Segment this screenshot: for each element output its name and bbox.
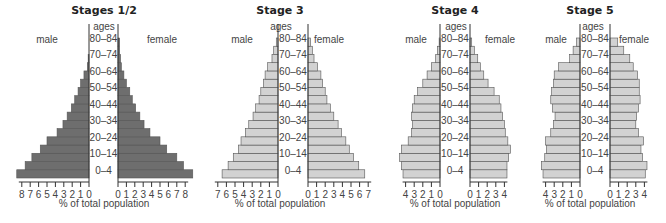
male-label: male — [545, 34, 567, 45]
male-bar-10-14 — [400, 153, 440, 161]
age-label: 80–84 — [90, 33, 118, 44]
male-bar-80-84 — [577, 38, 580, 46]
female-label: female — [147, 34, 177, 45]
female-bar-35-39 — [470, 112, 503, 120]
age-label: 0–4 — [447, 165, 464, 176]
female-bar-20-24 — [308, 137, 346, 145]
male-bar-55-59 — [263, 79, 278, 87]
female-bar-65-69 — [470, 63, 480, 71]
female-bar-5-9 — [610, 162, 647, 170]
female-bar-40-44 — [308, 104, 330, 112]
female-tick-label: 2 — [624, 189, 630, 200]
female-bar-25-29 — [610, 129, 638, 137]
male-bar-40-44 — [552, 104, 580, 112]
male-tick-label: 1 — [569, 189, 575, 200]
male-bar-30-34 — [412, 120, 440, 128]
x-axis-label: % of total population — [545, 198, 636, 209]
female-tick-label: 1 — [314, 189, 320, 200]
age-label: 30–34 — [279, 115, 307, 126]
male-bar-45-49 — [414, 96, 440, 104]
male-bar-55-59 — [81, 79, 89, 87]
male-bar-45-49 — [75, 96, 89, 104]
female-tick-label: 3 — [633, 189, 639, 200]
male-bar-55-59 — [423, 79, 440, 87]
female-bar-55-59 — [610, 79, 639, 87]
male-bar-50-54 — [78, 87, 89, 95]
age-label: 10–14 — [279, 148, 307, 159]
male-tick-label: 7 — [215, 189, 221, 200]
male-bar-0-4 — [403, 170, 440, 178]
male-bar-65-69 — [268, 63, 278, 71]
age-label: 40–44 — [279, 99, 307, 110]
male-bar-0-4 — [17, 170, 89, 178]
age-label: 40–44 — [581, 99, 609, 110]
age-label: 50–54 — [441, 82, 469, 93]
male-bar-20-24 — [241, 137, 278, 145]
female-bar-20-24 — [610, 137, 644, 145]
male-bar-40-44 — [71, 104, 89, 112]
chart-title: Stage 5 — [566, 4, 613, 17]
female-label: female — [314, 34, 344, 45]
male-tick-label: 4 — [53, 189, 59, 200]
age-label: 50–54 — [581, 82, 609, 93]
age-label: 80–84 — [581, 33, 609, 44]
male-tick-label: 3 — [61, 189, 67, 200]
female-bar-35-39 — [308, 112, 334, 120]
age-labels: 80–8470–7460–6450–5440–4430–3420–2410–14… — [90, 33, 118, 176]
male-tick-label: 0 — [275, 189, 281, 200]
female-bar-15-19 — [118, 145, 167, 153]
age-label: 0–4 — [587, 165, 604, 176]
male-bar-30-34 — [249, 120, 278, 128]
age-label: 20–24 — [441, 132, 469, 143]
male-bar-5-9 — [25, 162, 89, 170]
female-bar-0-4 — [610, 170, 645, 178]
age-label: 30–34 — [581, 115, 609, 126]
male-tick-label: 2 — [258, 189, 264, 200]
male-bar-60-64 — [84, 71, 89, 79]
female-tick-label: 2 — [322, 189, 328, 200]
female-tick-label: 0 — [467, 189, 473, 200]
male-tick-label: 1 — [429, 189, 435, 200]
female-bar-60-64 — [610, 71, 638, 79]
male-bar-15-19 — [238, 145, 278, 153]
male-bar-25-29 — [57, 129, 89, 137]
chart-title: Stage 3 — [256, 4, 303, 17]
female-bars — [308, 38, 365, 178]
male-tick-label: 7 — [27, 189, 33, 200]
female-tick-label: 5 — [348, 189, 354, 200]
female-bar-70-74 — [308, 54, 314, 62]
female-bar-5-9 — [470, 162, 507, 170]
age-label: 10–14 — [581, 148, 609, 159]
female-tick-label: 0 — [607, 189, 613, 200]
age-labels: 80–8470–7460–6450–5440–4430–3420–2410–14… — [441, 33, 469, 176]
male-bar-75-79 — [274, 46, 278, 54]
male-bar-40-44 — [256, 104, 278, 112]
female-bar-65-69 — [308, 63, 317, 71]
female-bar-5-9 — [118, 162, 184, 170]
male-tick-label: 4 — [241, 189, 247, 200]
female-tick-label: 0 — [305, 189, 311, 200]
female-bar-40-44 — [470, 104, 501, 112]
population-pyramids-figure: Stages 1/2 ages male female % of total p… — [0, 0, 666, 223]
male-bar-5-9 — [541, 162, 580, 170]
male-tick-label: 3 — [411, 189, 417, 200]
male-tick-label: 4 — [543, 189, 549, 200]
female-bar-45-49 — [308, 96, 327, 104]
female-bar-50-54 — [308, 87, 325, 95]
female-tick-label: 2 — [484, 189, 490, 200]
pyramid-stages-1-2: Stages 1/2 ages male female % of total p… — [17, 4, 193, 209]
pyramid-stage-3: Stage 3 ages male female % of total popu… — [215, 4, 372, 209]
male-bar-35-39 — [253, 112, 278, 120]
female-bar-50-54 — [470, 87, 494, 95]
male-bar-70-74 — [570, 54, 580, 62]
female-bar-15-19 — [308, 145, 349, 153]
male-tick-label: 6 — [224, 189, 230, 200]
male-bar-55-59 — [553, 79, 580, 87]
female-bars — [470, 38, 510, 178]
female-bar-30-34 — [610, 120, 636, 128]
female-bar-35-39 — [610, 112, 637, 120]
female-bar-30-34 — [308, 120, 338, 128]
age-label: 70–74 — [441, 49, 469, 60]
male-bar-65-69 — [431, 63, 440, 71]
female-bar-60-64 — [118, 71, 124, 79]
